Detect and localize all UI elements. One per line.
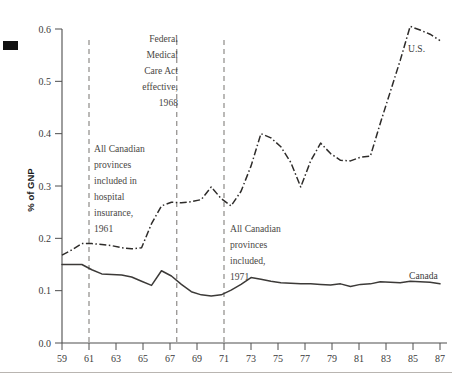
y-tick-label: 0.2 xyxy=(39,233,52,244)
annotation-line: effective, xyxy=(142,81,178,92)
x-tick-label: 71 xyxy=(219,353,229,364)
annotation-all-provinces-included-1971: All Canadianprovincesincluded,1971 xyxy=(230,223,281,282)
annotation-line: included in xyxy=(94,175,137,186)
annotation-line: Care Act xyxy=(144,65,178,76)
annotation-line: insurance, xyxy=(94,207,133,218)
x-axis-group: 596163656769717375777981838587 xyxy=(57,343,447,364)
x-tick-label: 59 xyxy=(57,353,67,364)
annotation-line: 1971 xyxy=(230,271,249,282)
annotation-line: All Canadian xyxy=(230,223,281,234)
x-tick-marks xyxy=(62,343,440,350)
annotation-line: included, xyxy=(230,255,265,266)
annotation-line: Medical xyxy=(147,49,179,60)
chart-figure: 0.00.10.20.30.40.50.6 % of GNP 596163656… xyxy=(0,0,468,387)
annotation-line: 1968 xyxy=(159,97,178,108)
annotation-line: Federal xyxy=(149,33,178,44)
annotation-line: 1961 xyxy=(94,223,113,234)
annotation-line: hospital xyxy=(94,191,125,202)
y-tick-labels: 0.00.10.20.30.40.50.6 xyxy=(39,24,52,349)
y-axis-title: % of GNP xyxy=(25,168,36,212)
x-tick-label: 85 xyxy=(408,353,418,364)
series-inline-labels: U.S.Canada xyxy=(408,43,439,281)
annotation-line: provinces xyxy=(230,239,268,250)
x-tick-label: 67 xyxy=(165,353,175,364)
y-tick-label: 0.4 xyxy=(39,128,52,139)
series-line-us xyxy=(62,26,440,255)
y-tick-label: 0.3 xyxy=(39,181,52,192)
x-tick-label: 83 xyxy=(381,353,391,364)
bottom-divider-rule xyxy=(0,372,452,373)
y-tick-label: 0.0 xyxy=(39,338,52,349)
annotation-line: All Canadian xyxy=(94,143,145,154)
x-tick-label: 77 xyxy=(300,353,310,364)
x-tick-label: 73 xyxy=(246,353,256,364)
x-tick-labels: 596163656769717375777981838587 xyxy=(57,353,445,364)
series-label-canada: Canada xyxy=(409,270,439,281)
annotation-hospital-insurance-1961: All Canadianprovincesincluded inhospital… xyxy=(94,143,145,234)
y-tick-label: 0.1 xyxy=(39,285,52,296)
series-label-us: U.S. xyxy=(408,43,425,54)
x-tick-label: 75 xyxy=(273,353,283,364)
annotation-line: provinces xyxy=(94,159,132,170)
y-tick-label: 0.5 xyxy=(39,76,52,87)
y-axis-group: 0.00.10.20.30.40.50.6 % of GNP xyxy=(25,24,62,349)
x-tick-label: 79 xyxy=(327,353,337,364)
y-tick-marks xyxy=(55,29,62,343)
y-tick-label: 0.6 xyxy=(39,24,52,35)
line-chart-canvas: 0.00.10.20.30.40.50.6 % of GNP 596163656… xyxy=(0,0,468,387)
x-tick-label: 63 xyxy=(111,353,121,364)
series-line-canada xyxy=(62,265,440,296)
x-tick-label: 87 xyxy=(435,353,445,364)
annotation-federal-medical-care-act-1968: FederalMedicalCare Acteffective,1968 xyxy=(142,33,178,108)
x-tick-label: 61 xyxy=(84,353,94,364)
x-tick-label: 65 xyxy=(138,353,148,364)
x-tick-label: 69 xyxy=(192,353,202,364)
x-tick-label: 81 xyxy=(354,353,364,364)
